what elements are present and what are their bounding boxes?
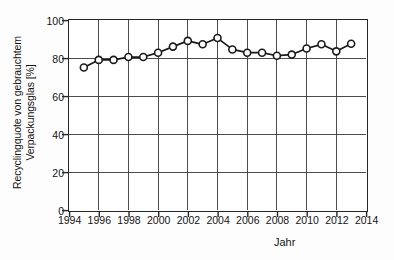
chart-figure: Recyclingquote von gebrauchtem Verpackun… xyxy=(0,0,394,260)
data-point xyxy=(244,49,251,56)
plot-area xyxy=(68,19,368,212)
data-point xyxy=(259,49,266,56)
data-point xyxy=(318,41,325,48)
chart-canvas xyxy=(69,20,366,210)
y-axis-title-line1: Recyclingquote von gebrauchtem xyxy=(11,36,23,189)
y-axis-ticks xyxy=(62,0,68,260)
data-point xyxy=(184,37,191,44)
y-tick-label: 20 xyxy=(40,167,64,178)
data-point xyxy=(333,48,340,55)
data-point xyxy=(303,45,310,52)
x-axis-ticks xyxy=(0,212,394,219)
data-point xyxy=(229,46,236,53)
x-axis-title: Jahr xyxy=(274,236,295,248)
y-tick-label: 100 xyxy=(40,15,64,26)
data-point xyxy=(214,35,221,42)
data-point xyxy=(110,56,117,63)
data-point xyxy=(348,40,355,47)
data-point xyxy=(273,52,280,59)
y-tick-label: 60 xyxy=(40,91,64,102)
data-point xyxy=(288,51,295,58)
data-point xyxy=(199,41,206,48)
data-point xyxy=(140,54,147,61)
data-point xyxy=(169,43,176,50)
data-point xyxy=(155,49,162,56)
data-point xyxy=(80,64,87,71)
y-tick-label: 40 xyxy=(40,129,64,140)
data-point xyxy=(125,54,132,61)
y-axis-title-line2: Verpackungsglas [%] xyxy=(23,36,36,189)
y-tick-label: 80 xyxy=(40,53,64,64)
data-point xyxy=(95,56,102,63)
